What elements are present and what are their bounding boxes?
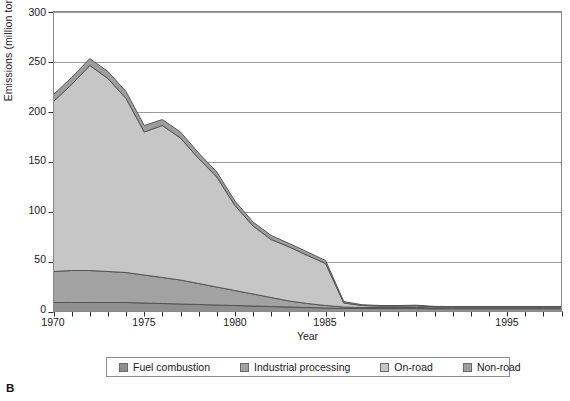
legend-swatch-icon — [240, 363, 249, 372]
stacked-area-plot — [0, 0, 570, 401]
legend-item-on-road[interactable]: On-road — [380, 361, 433, 373]
legend-label: On-road — [394, 361, 433, 373]
legend-swatch-icon — [119, 363, 128, 372]
legend-item-fuel-combustion[interactable]: Fuel combustion — [119, 361, 210, 373]
area-series-group — [54, 59, 562, 312]
legend-item-non-road[interactable]: Non-road — [463, 361, 521, 373]
legend-label: Industrial processing — [254, 361, 350, 373]
legend-item-industrial-processing[interactable]: Industrial processing — [240, 361, 350, 373]
legend-swatch-icon — [380, 363, 389, 372]
panel-label: B — [6, 382, 14, 394]
legend-label: Non-road — [477, 361, 521, 373]
legend-swatch-icon — [463, 363, 472, 372]
figure-panel-b: Emissions (million tons) 300 250 200 150… — [0, 0, 570, 401]
legend: Fuel combustion Industrial processing On… — [106, 357, 510, 377]
legend-label: Fuel combustion — [133, 361, 210, 373]
